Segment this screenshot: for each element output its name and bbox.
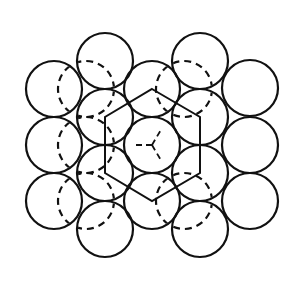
sphere-c5r2 xyxy=(222,117,278,173)
sphere-c1r3 xyxy=(26,173,82,229)
center-arm-1 xyxy=(152,128,162,145)
sphere-packing-diagram: Close-packed layer of spheres with a hex… xyxy=(0,0,307,290)
sphere-c1r2 xyxy=(26,117,82,173)
sphere-c5r3 xyxy=(222,173,278,229)
sphere-c1r1 xyxy=(26,61,82,117)
sphere-c4r4 xyxy=(172,201,228,257)
center-arm-2 xyxy=(152,145,162,162)
sphere-c5r1 xyxy=(222,60,278,116)
packing-canvas xyxy=(0,0,307,290)
sphere-c4r1 xyxy=(172,33,228,89)
center-dashed-arms xyxy=(134,128,162,162)
